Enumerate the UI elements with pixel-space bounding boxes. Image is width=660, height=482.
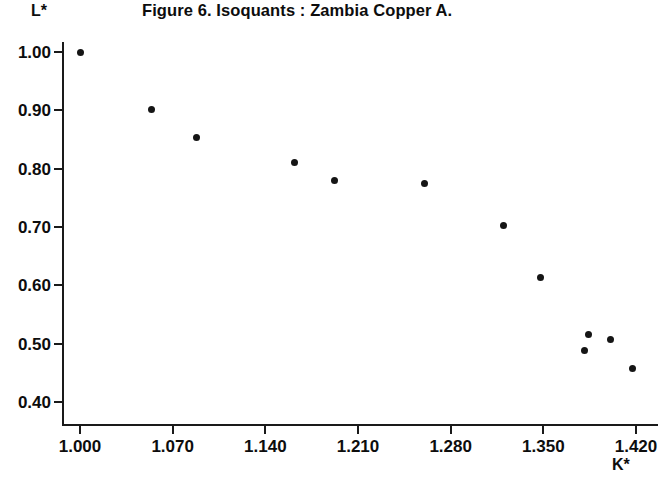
y-axis-title: L* (31, 2, 47, 20)
x-tick-label: 1.420 (615, 438, 658, 455)
x-tick-label: 1.210 (337, 438, 380, 455)
x-tick-mark (172, 426, 174, 434)
data-point (77, 49, 84, 56)
data-point (581, 347, 588, 354)
y-tick-mark (54, 343, 62, 345)
y-tick-mark (54, 401, 62, 403)
data-point (421, 180, 428, 187)
y-tick-mark (54, 168, 62, 170)
x-tick-mark (542, 426, 544, 434)
y-tick-label: 0.50 (18, 335, 51, 352)
data-point (537, 274, 544, 281)
y-tick-label: 0.40 (18, 394, 51, 411)
x-tick-label: 1.280 (429, 438, 472, 455)
x-tick-mark (635, 426, 637, 434)
y-tick-mark (54, 109, 62, 111)
data-point (193, 134, 200, 141)
y-tick-label: 0.70 (18, 219, 51, 236)
plot-area: 0.400.500.600.700.800.901.00 1.0001.0701… (62, 30, 658, 426)
x-tick-mark (357, 426, 359, 434)
x-axis-title: K* (612, 456, 630, 474)
data-point (500, 222, 507, 229)
data-point (629, 365, 636, 372)
x-tick-label: 1.350 (522, 438, 565, 455)
y-tick-mark (54, 51, 62, 53)
figure-container: Figure 6. Isoquants : Zambia Copper A. L… (0, 0, 660, 482)
data-point (291, 159, 298, 166)
y-tick-label: 0.90 (18, 102, 51, 119)
chart-title: Figure 6. Isoquants : Zambia Copper A. (142, 1, 562, 20)
x-axis-line (62, 424, 658, 426)
data-point (607, 336, 614, 343)
data-point (585, 331, 592, 338)
x-tick-mark (264, 426, 266, 434)
x-tick-label: 1.070 (151, 438, 194, 455)
data-point (331, 177, 338, 184)
y-tick-label: 0.60 (18, 277, 51, 294)
y-tick-mark (54, 226, 62, 228)
x-tick-label: 1.000 (59, 438, 102, 455)
y-tick-label: 0.80 (18, 160, 51, 177)
x-tick-mark (450, 426, 452, 434)
y-axis-line (62, 42, 64, 426)
y-tick-label: 1.00 (18, 44, 51, 61)
x-tick-mark (79, 426, 81, 434)
x-tick-label: 1.140 (244, 438, 287, 455)
data-point (148, 106, 155, 113)
y-tick-mark (54, 284, 62, 286)
